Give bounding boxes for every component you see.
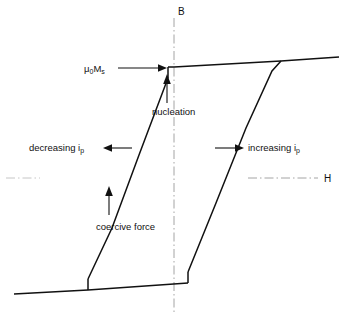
nucleation-label: nucleation: [152, 106, 195, 117]
nucleation-arrow-head: [163, 74, 171, 84]
annotation-arrows: [103, 64, 244, 215]
increasing-current-text: increasing i: [248, 142, 296, 153]
decreasing-arrow-head: [103, 144, 112, 152]
decreasing-current-text: decreasing i: [29, 142, 80, 153]
upper-saturation-branch: [168, 57, 339, 67]
hysteresis-figure: B H μ0Ms nucleation coercive force decre…: [0, 0, 341, 317]
hysteresis-loop-plot: B H μ0Ms nucleation coercive force decre…: [0, 0, 341, 317]
h-axis-label: H: [324, 173, 331, 184]
decreasing-current-subscript: p: [80, 147, 84, 155]
coercive-force-label: coercive force: [96, 221, 155, 232]
text-label-group: B H μ0Ms nucleation coercive force decre…: [29, 6, 331, 232]
saturation-label-subs: s: [101, 68, 105, 75]
increasing-current-label: increasing ip: [248, 142, 300, 155]
saturation-arrow-head: [158, 64, 167, 72]
hysteresis-curve-group: [14, 57, 339, 294]
increasing-current-subscript: p: [296, 147, 300, 155]
saturation-label-m: M: [93, 63, 101, 74]
saturation-label: μ0Ms: [84, 63, 105, 75]
ascending-branch: [188, 61, 281, 272]
decreasing-current-label: decreasing ip: [29, 142, 84, 155]
coercive-arrow-head: [105, 186, 113, 196]
lower-saturation-branch: [14, 283, 188, 294]
b-axis-label: B: [178, 6, 185, 17]
